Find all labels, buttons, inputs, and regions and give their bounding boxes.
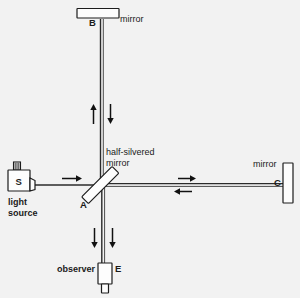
label-mirror-right: mirror bbox=[253, 159, 277, 169]
interferometer-figure: S B mirror mirror C half-silvered mirror… bbox=[0, 0, 300, 298]
mirror-top[interactable] bbox=[77, 9, 119, 19]
observer-barrel bbox=[98, 263, 112, 284]
label-observer: observer bbox=[57, 264, 96, 274]
label-beam-splitter-line1: half-silvered bbox=[106, 147, 155, 157]
label-point-a: A bbox=[80, 199, 87, 210]
diagram-canvas: S B mirror mirror C half-silvered mirror… bbox=[0, 0, 300, 298]
observer-eyepiece bbox=[102, 284, 109, 293]
label-point-c: C bbox=[274, 177, 281, 188]
label-light-source-line1: light bbox=[8, 197, 27, 207]
mirror-right[interactable] bbox=[283, 163, 293, 203]
label-mirror-top: mirror bbox=[120, 14, 144, 24]
light-source-nozzle bbox=[30, 178, 35, 191]
light-source-label-s: S bbox=[16, 176, 22, 187]
label-point-b: B bbox=[89, 17, 96, 28]
label-light-source-line2: source bbox=[8, 208, 38, 218]
label-beam-splitter-line2: mirror bbox=[106, 158, 130, 168]
label-point-e: E bbox=[115, 263, 121, 274]
